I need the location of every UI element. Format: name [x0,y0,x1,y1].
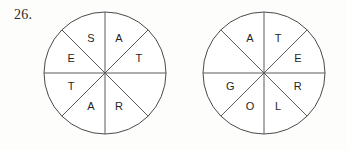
sector-letter-east-north: E [294,52,301,64]
sector-letter-south-east: R [115,100,123,112]
sector-letter-north-east: T [275,32,282,44]
sector-letter-east-south: R [294,80,302,92]
wheel-dividers [203,12,325,134]
word-wheel-left: ATRATES [43,11,167,135]
sector-letter-west-south: T [68,80,75,92]
wheel-dividers [44,12,166,134]
sector-letter-north-west: S [87,32,94,44]
sector-letter-west-north: E [68,52,75,64]
exercise-number: 26. [14,7,32,23]
word-wheel-left-svg: ATRATES [43,11,167,135]
exercise-figure: 26. ATRATES TERLOGA [0,0,347,150]
sector-letter-south-west: A [87,100,95,112]
sector-letter-north-west: A [246,32,254,44]
sector-letter-west-south: G [226,80,235,92]
word-wheel-right-svg: TERLOGA [202,11,326,135]
word-wheel-right: TERLOGA [202,11,326,135]
sector-letter-south-east: L [275,100,281,112]
sector-letter-south-west: O [246,100,255,112]
sector-letter-north-east: A [115,32,123,44]
sector-letter-east-north: T [135,52,142,64]
